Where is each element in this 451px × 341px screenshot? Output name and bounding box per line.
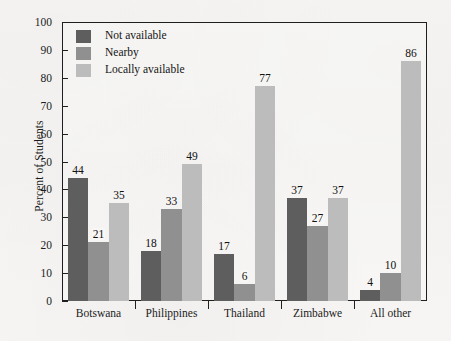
x-axis-tick — [354, 301, 355, 309]
legend-swatch-icon — [76, 64, 91, 77]
bar — [307, 226, 328, 301]
x-axis-tick — [135, 301, 136, 309]
bar-value-label: 17 — [218, 240, 230, 252]
bar-value-label: 6 — [241, 270, 249, 282]
bar — [68, 178, 89, 301]
bar-chart: Percent of Students 10090807060504030201… — [0, 0, 451, 341]
bar-value-label: 18 — [145, 237, 157, 249]
x-axis-category-label: All other — [370, 307, 411, 319]
y-tick-label: 50 — [0, 156, 52, 168]
y-tick-label: 0 — [0, 295, 52, 307]
x-axis-category-label: Philippines — [146, 307, 198, 319]
y-tick-mark — [62, 106, 68, 107]
legend-label: Not available — [105, 30, 167, 42]
legend-item: Locally available — [76, 62, 185, 78]
bar-value-label: 4 — [367, 276, 373, 288]
legend-item: Not available — [76, 28, 185, 44]
bar — [88, 242, 109, 301]
bar — [161, 209, 182, 301]
y-tick-mark — [62, 134, 68, 135]
y-tick-label: 60 — [0, 128, 52, 140]
y-tick-mark — [62, 162, 68, 163]
legend-swatch-icon — [76, 30, 91, 43]
bar — [182, 164, 203, 301]
x-axis-category-label: Thailand — [224, 307, 265, 319]
bar — [401, 61, 422, 301]
bar — [360, 290, 381, 301]
bar-value-label: 33 — [166, 195, 178, 207]
x-axis-tick — [208, 301, 209, 309]
y-tick-mark — [62, 50, 68, 51]
legend-label: Locally available — [105, 64, 185, 76]
bar-value-label: 21 — [92, 228, 106, 240]
legend-item: Nearby — [76, 45, 185, 61]
bar — [234, 284, 255, 301]
y-tick-label: 100 — [0, 16, 52, 28]
y-tick-label: 10 — [0, 267, 52, 279]
y-tick-mark — [62, 22, 68, 23]
bar-value-label: 49 — [186, 150, 198, 162]
legend-swatch-icon — [76, 47, 91, 60]
bar-value-label: 35 — [113, 189, 125, 201]
bar-value-label: 77 — [259, 72, 271, 84]
y-tick-label: 90 — [0, 44, 52, 56]
bar — [214, 254, 235, 301]
bar — [255, 86, 276, 301]
bar — [328, 198, 349, 301]
x-axis-tick — [281, 301, 282, 309]
y-tick-mark — [62, 301, 68, 302]
bar-value-label: 10 — [385, 259, 397, 271]
x-axis-category-label: Botswana — [76, 307, 121, 319]
bar-value-label: 44 — [72, 164, 84, 176]
bar — [380, 273, 401, 301]
chart-legend: Not availableNearbyLocally available — [76, 28, 185, 79]
bar — [141, 251, 162, 301]
x-axis-category-label: Zimbabwe — [293, 307, 342, 319]
y-tick-label: 70 — [0, 100, 52, 112]
legend-label: Nearby — [105, 47, 139, 59]
bar — [109, 203, 130, 301]
bar-value-label: 37 — [291, 184, 303, 196]
y-tick-label: 40 — [0, 183, 52, 195]
y-tick-label: 30 — [0, 211, 52, 223]
y-tick-label: 20 — [0, 239, 52, 251]
y-tick-label: 80 — [0, 72, 52, 84]
bar-value-label: 27 — [311, 212, 325, 224]
bar — [287, 198, 308, 301]
bar-value-label: 86 — [405, 47, 417, 59]
y-tick-mark — [62, 78, 68, 79]
bar-value-label: 37 — [332, 184, 344, 196]
